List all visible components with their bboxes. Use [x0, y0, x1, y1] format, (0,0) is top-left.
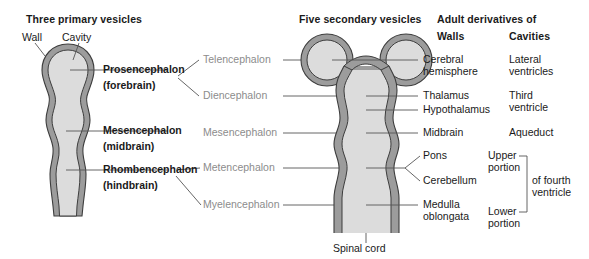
label-mesencephalon-secondary: Mesencephalon [203, 127, 277, 138]
column-header-walls: Walls [437, 31, 465, 42]
figure-canvas: Three primary vesicles Five secondary ve… [0, 0, 589, 259]
label-lateral-ventricles: Lateral ventricles [509, 54, 564, 77]
leader-wall [35, 43, 45, 56]
leader-pons [405, 156, 420, 168]
label-myelencephalon: Myelencephalon [203, 199, 279, 210]
label-midbrain: Midbrain [423, 127, 463, 138]
label-pons: Pons [423, 150, 447, 161]
label-wall: Wall [22, 32, 42, 43]
column-header-primary: Three primary vesicles [26, 14, 142, 25]
label-rhombencephalon: Rhombencephalon [103, 164, 198, 175]
column-header-cavities: Cavities [509, 31, 550, 42]
label-hypothalamus: Hypothalamus [423, 104, 490, 115]
secondary-vesicle-shape [301, 34, 432, 233]
label-telencephalon: Telencephalon [203, 54, 271, 65]
label-aqueduct: Aqueduct [509, 127, 553, 138]
label-third-ventricle: Third ventricle [509, 90, 564, 113]
label-prosencephalon-common: (forebrain) [103, 80, 156, 91]
leader-fork-diencephalon [178, 78, 199, 96]
label-mesencephalon-primary-common: (midbrain) [103, 141, 154, 152]
label-medulla-oblongata: Medulla oblongata [423, 199, 485, 222]
label-spinal-cord: Spinal cord [333, 243, 386, 254]
leader-cerebellum [405, 168, 420, 181]
label-fourth-ventricle-bracket: of fourth ventricle [532, 175, 584, 198]
column-header-secondary: Five secondary vesicles [299, 14, 422, 25]
label-mesencephalon-primary: Mesencephalon [103, 125, 182, 136]
column-header-adult: Adult derivatives of [437, 14, 536, 25]
label-cerebellum: Cerebellum [423, 175, 477, 186]
label-upper-portion: Upper portion [488, 150, 522, 173]
label-thalamus: Thalamus [423, 90, 469, 101]
label-lower-portion: Lower portion [488, 206, 522, 229]
label-metencephalon: Metencephalon [203, 162, 275, 173]
label-cerebral-hemisphere: Cerebral hemisphere [423, 54, 483, 77]
label-diencephalon: Diencephalon [203, 90, 267, 101]
label-prosencephalon: Prosencephalon [103, 64, 185, 75]
label-cavity: Cavity [62, 32, 91, 43]
label-rhombencephalon-common: (hindbrain) [103, 180, 158, 191]
leader-fork-myelencephalon [176, 176, 201, 205]
